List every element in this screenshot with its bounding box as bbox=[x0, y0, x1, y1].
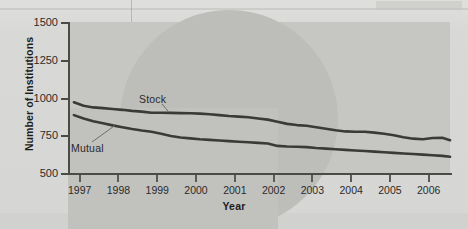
y-tick bbox=[61, 60, 69, 62]
scan-artifact-blotch bbox=[376, 1, 462, 10]
x-tick-label: 2006 bbox=[406, 184, 452, 196]
y-tick bbox=[61, 22, 69, 24]
x-axis-line bbox=[68, 173, 452, 175]
y-tick bbox=[61, 98, 69, 100]
y-axis-title: Number of Institutions bbox=[23, 9, 35, 179]
x-tick bbox=[156, 175, 158, 182]
x-tick bbox=[79, 175, 81, 182]
series-label-stock: Stock bbox=[139, 93, 166, 105]
x-tick bbox=[234, 175, 236, 182]
x-tick bbox=[195, 175, 197, 182]
x-tick bbox=[350, 175, 352, 182]
series-label-mutual: Mutual bbox=[71, 142, 104, 154]
x-tick bbox=[273, 175, 275, 182]
x-tick bbox=[117, 175, 119, 182]
plot-area bbox=[68, 22, 450, 173]
x-tick bbox=[428, 175, 430, 182]
x-tick bbox=[311, 175, 313, 182]
y-tick bbox=[61, 135, 69, 137]
y-tick bbox=[61, 173, 69, 175]
x-axis-title: Year bbox=[0, 200, 468, 212]
x-tick bbox=[389, 175, 391, 182]
scan-artifact-vertical-line bbox=[131, 0, 132, 24]
